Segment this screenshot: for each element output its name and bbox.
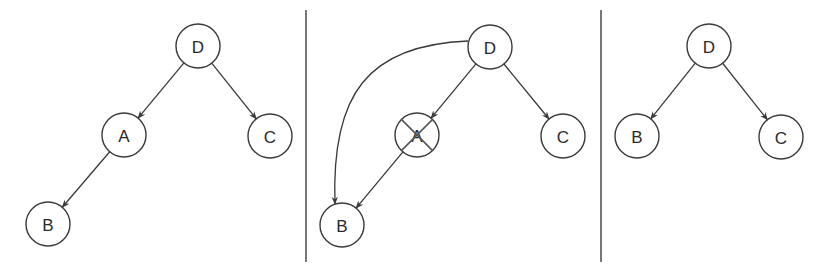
node-after-d: D <box>687 24 731 68</box>
edge-before-a-to-b <box>62 152 109 208</box>
node-before-b: B <box>26 202 70 246</box>
node-during-c: C <box>541 114 585 158</box>
edge-during-d-to-a <box>431 64 476 118</box>
edge-before-d-to-c <box>212 63 257 119</box>
node-label: D <box>192 38 204 57</box>
node-during-b: B <box>320 203 364 247</box>
node-label: C <box>264 128 276 147</box>
node-before-a: A <box>102 113 146 157</box>
node-label: D <box>703 38 715 57</box>
tree-deletion-diagram: DACBDACBDBC <box>0 0 819 273</box>
node-label: C <box>775 129 787 148</box>
edge-during-d-to-c <box>504 64 549 119</box>
node-label: B <box>42 216 53 235</box>
node-during-d: D <box>468 25 512 69</box>
edge-after-d-to-c <box>723 63 768 119</box>
node-label: B <box>336 217 347 236</box>
node-before-d: D <box>176 24 220 68</box>
edge-after-d-to-b <box>651 63 696 119</box>
node-label: D <box>484 39 496 58</box>
edge-before-d-to-a <box>138 63 184 118</box>
node-label: C <box>557 128 569 147</box>
node-after-c: C <box>759 115 803 159</box>
node-label: A <box>118 127 130 146</box>
node-during-a: A <box>395 113 439 157</box>
nodes: DACBDACBDBC <box>26 24 803 247</box>
edge-during-a-to-b <box>356 152 403 208</box>
node-label: B <box>631 128 642 147</box>
node-before-c: C <box>248 114 292 158</box>
node-after-b: B <box>615 114 659 158</box>
